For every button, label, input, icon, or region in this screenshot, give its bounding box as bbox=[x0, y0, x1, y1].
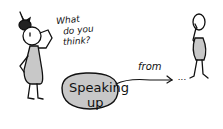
arrow-label: from bbox=[138, 61, 162, 72]
speaking-up-illustration: What do you think? Speaking up from ... bbox=[0, 0, 223, 129]
bubble-line-1: Speaking bbox=[69, 81, 129, 95]
drawing bbox=[0, 0, 223, 129]
left-person-figure bbox=[19, 12, 52, 99]
right-person-figure bbox=[190, 14, 208, 78]
bubble-line-2: up bbox=[87, 96, 104, 110]
trailing-dots: ... bbox=[178, 72, 187, 82]
question-line-3: think? bbox=[63, 35, 91, 47]
